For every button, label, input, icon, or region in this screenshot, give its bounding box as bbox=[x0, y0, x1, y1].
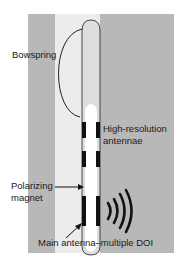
polarizing-magnet-label-line2: magnet bbox=[11, 192, 43, 203]
polarizing-magnet-label-line1: Polarizing bbox=[11, 180, 53, 191]
main-antenna-label: Main antenna–multiple DOI bbox=[38, 237, 153, 248]
radio-waves-icon bbox=[108, 190, 132, 232]
polarizing-magnet-arrow bbox=[55, 184, 84, 190]
main-antenna-arrow bbox=[66, 223, 82, 238]
bowspring-label: Bowspring bbox=[12, 49, 56, 60]
high-resolution-label-line1: High-resolution bbox=[103, 123, 167, 134]
high-resolution-label-line2: antennae bbox=[103, 135, 143, 146]
bowspring-wire bbox=[59, 29, 83, 117]
